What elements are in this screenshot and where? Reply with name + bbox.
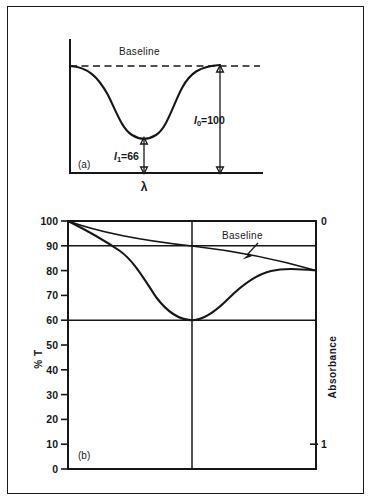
panel-b-baseline-label: Baseline (222, 230, 263, 241)
panel-b-abstick-0: 0 (321, 215, 327, 227)
panel-b-ytick-100: 100 (40, 215, 58, 227)
panel-b-label: (b) (78, 450, 90, 461)
panel-a-baseline-label: Baseline (119, 46, 160, 57)
panel-b-ytick-50: 50 (46, 339, 58, 351)
panel-b-ytick-30: 30 (46, 389, 58, 401)
panel-b-ytick-0: 0 (52, 463, 58, 475)
figure-root: I0=100 I1=66 Baseline (a) λ (8, 7, 363, 493)
panel-b-abstick-1: 1 (321, 438, 327, 450)
panel-b: 100 90 80 70 60 50 40 30 20 10 0 0 1 (26, 207, 356, 495)
panel-a-lambda-label: λ (141, 180, 148, 194)
panel-b-y-ticks (61, 221, 68, 469)
panel-a-i0-label: I0=100 (194, 114, 225, 128)
panel-a-svg: I0=100 I1=66 Baseline (a) λ (48, 33, 278, 198)
page-border: I0=100 I1=66 Baseline (a) λ (7, 6, 364, 494)
panel-b-ytick-60: 60 (46, 314, 58, 326)
panel-a-i0-measure: I0=100 (194, 66, 225, 174)
panel-a-i1-measure: I1=66 (114, 138, 147, 174)
panel-b-ytick-20: 20 (46, 413, 58, 425)
panel-a-axes (70, 39, 263, 173)
panel-b-ytick-80: 80 (46, 265, 58, 277)
panel-b-y-axis-title: % T (33, 349, 44, 368)
panel-a-i1-label: I1=66 (114, 150, 139, 164)
panel-b-ytick-90: 90 (46, 240, 58, 252)
panel-b-y2-axis-title: Absorbance (327, 336, 338, 399)
panel-b-svg: 100 90 80 70 60 50 40 30 20 10 0 0 1 (26, 207, 356, 495)
panel-a: I0=100 I1=66 Baseline (a) λ (48, 33, 278, 198)
panel-b-ytick-70: 70 (46, 289, 58, 301)
panel-b-ytick-10: 10 (46, 438, 58, 450)
panel-a-label: (a) (78, 159, 90, 170)
panel-b-ytick-40: 40 (46, 364, 58, 376)
